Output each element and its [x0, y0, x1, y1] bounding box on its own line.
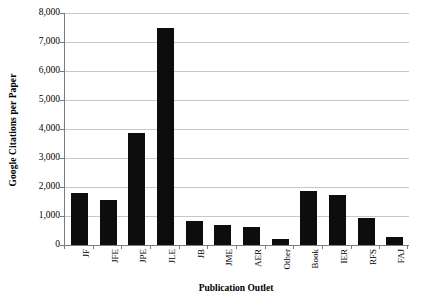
- x-axis-labels: JFJFEJPEJLEJBJMEAEROtherBookIERRFSFAJ: [64, 249, 408, 283]
- bar-faj: [386, 237, 403, 245]
- x-label-slot: JLE: [150, 249, 179, 283]
- x-label-slot: Book: [293, 249, 322, 283]
- bar-other: [272, 239, 289, 245]
- y-axis-tick-label: 6,000: [4, 66, 60, 76]
- bar-ier: [329, 195, 346, 245]
- x-label-slot: JB: [179, 249, 208, 283]
- bar-slot: [294, 13, 323, 245]
- y-axis-tick-mark: [60, 71, 64, 72]
- bar-slot: [180, 13, 209, 245]
- x-label-slot: RFS: [351, 249, 380, 283]
- x-label-slot: JFE: [93, 249, 122, 283]
- bar-slot: [65, 13, 94, 245]
- bar-aer: [243, 227, 260, 245]
- y-axis-tick-label: 0: [4, 240, 60, 250]
- bar-slot: [237, 13, 266, 245]
- y-axis-tick-mark: [60, 216, 64, 217]
- bar-jb: [186, 221, 203, 245]
- x-axis-category-label: FAJ: [397, 249, 406, 263]
- x-label-slot: Other: [265, 249, 294, 283]
- y-axis-tick-label: 1,000: [4, 211, 60, 221]
- bars-group: [65, 13, 409, 245]
- bar-jme: [214, 225, 231, 245]
- bar-rfs: [358, 218, 375, 245]
- y-axis-tick-mark: [60, 158, 64, 159]
- plot-area: [64, 13, 409, 245]
- bar-jf: [71, 193, 88, 245]
- x-axis-category-label: IER: [340, 249, 349, 264]
- x-axis-category-label: RFS: [369, 249, 378, 265]
- bar-jfe: [100, 200, 117, 245]
- bar-slot: [208, 13, 237, 245]
- bar-slot: [94, 13, 123, 245]
- bar-slot: [151, 13, 180, 245]
- y-axis-tick-label: 7,000: [4, 37, 60, 47]
- x-axis-category-label: JFE: [111, 249, 120, 263]
- bar-jpe: [128, 133, 145, 245]
- bar-slot: [352, 13, 381, 245]
- y-axis-tick-label: 4,000: [4, 124, 60, 134]
- x-axis-category-label: JB: [197, 249, 206, 259]
- bar-book: [300, 191, 317, 245]
- bar-chart: Google Citations per Paper 8,0007,0006,0…: [0, 0, 426, 295]
- bar-slot: [380, 13, 409, 245]
- bar-slot: [323, 13, 352, 245]
- x-axis-category-label: Other: [283, 249, 292, 270]
- x-axis-category-label: JPE: [139, 249, 148, 263]
- x-label-slot: IER: [322, 249, 351, 283]
- y-axis-tick-label: 8,000: [4, 8, 60, 18]
- x-label-slot: AER: [236, 249, 265, 283]
- x-label-slot: JME: [207, 249, 236, 283]
- bar-slot: [122, 13, 151, 245]
- y-axis-tick-mark: [60, 187, 64, 188]
- y-axis-tick-label: 5,000: [4, 95, 60, 105]
- x-axis-category-label: Book: [311, 249, 320, 269]
- y-axis-tick-label: 3,000: [4, 153, 60, 163]
- y-axis-tick-mark: [60, 100, 64, 101]
- x-label-slot: JPE: [121, 249, 150, 283]
- x-axis-category-label: JME: [225, 249, 234, 266]
- x-axis-category-label: JF: [82, 249, 91, 258]
- y-axis-tick-mark: [60, 129, 64, 130]
- bar-jle: [157, 28, 174, 246]
- x-axis-title: Publication Outlet: [64, 283, 408, 293]
- y-axis-tick-label: 2,000: [4, 182, 60, 192]
- x-label-slot: JF: [64, 249, 93, 283]
- bar-slot: [266, 13, 295, 245]
- x-axis-category-label: AER: [254, 249, 263, 267]
- x-label-slot: FAJ: [379, 249, 408, 283]
- x-axis-category-label: JLE: [168, 249, 177, 264]
- y-axis-tick-mark: [60, 42, 64, 43]
- y-axis-tick-mark: [60, 13, 64, 14]
